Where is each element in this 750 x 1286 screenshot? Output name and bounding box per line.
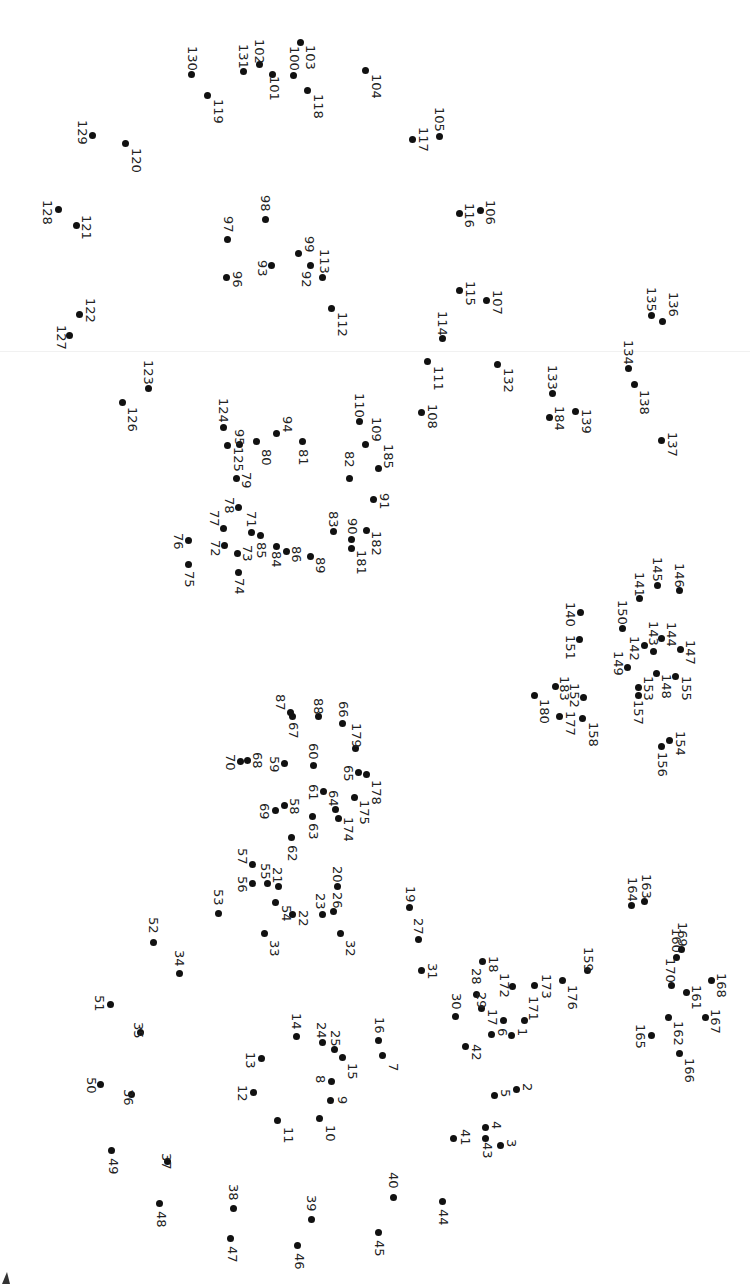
dot-label: 60 (307, 743, 320, 760)
dot-label: 167 (709, 1009, 722, 1034)
dot-label: 122 (84, 298, 97, 323)
dot-66 (339, 720, 346, 727)
dot-40 (390, 1194, 397, 1201)
dot-label: 78 (223, 497, 236, 514)
dot-label: 40 (387, 1172, 400, 1189)
dot-label: 99 (303, 236, 316, 253)
dot-118 (304, 87, 311, 94)
dot-97 (224, 236, 231, 243)
dot-135 (648, 312, 655, 319)
dot-label: 58 (288, 798, 301, 815)
dot-label: 108 (426, 404, 439, 429)
dot-54 (272, 899, 279, 906)
dot-14 (293, 1033, 300, 1040)
dot-157 (635, 692, 642, 699)
dot-label: 14 (290, 1013, 303, 1030)
dot-label: 84 (270, 551, 283, 568)
dot-label: 117 (417, 127, 430, 152)
dot-47 (227, 1235, 234, 1242)
dot-label: 172 (498, 973, 511, 998)
dot-label: 110 (353, 393, 366, 418)
dot-176 (559, 977, 566, 984)
dot-label: 143 (647, 621, 660, 646)
dot-label: 48 (155, 1211, 168, 1228)
dot-label: 95 (233, 429, 246, 446)
dot-label: 183 (558, 676, 571, 701)
dot-label: 166 (683, 1058, 696, 1083)
dot-label: 44 (437, 1209, 450, 1226)
dot-label: 87 (274, 694, 287, 711)
dot-label: 104 (370, 74, 383, 99)
dot-label: 162 (672, 1021, 685, 1046)
page-fold-line (0, 351, 750, 352)
dot-label: 20 (331, 866, 344, 883)
dot-label: 135 (645, 287, 658, 312)
dot-124 (220, 424, 227, 431)
dot-24 (319, 1039, 326, 1046)
dot-label: 128 (41, 200, 54, 225)
dot-label: 164 (626, 877, 639, 902)
dot-label: 92 (300, 271, 313, 288)
dot-label: 22 (297, 910, 310, 927)
dot-155 (672, 673, 679, 680)
dot-17 (500, 1017, 507, 1024)
dot-label: 77 (208, 510, 221, 527)
dot-173 (531, 982, 538, 989)
dot-119 (204, 92, 211, 99)
dot-52 (150, 939, 157, 946)
dot-44 (439, 1198, 446, 1205)
dot-label: 28 (470, 968, 483, 985)
dot-label: 29 (475, 992, 488, 1009)
dot-62 (288, 834, 295, 841)
dot-label: 74 (233, 578, 246, 595)
dot-label: 177 (564, 711, 577, 736)
dot-label: 46 (293, 1253, 306, 1270)
dot-label: 53 (212, 889, 225, 906)
dot-138 (631, 381, 638, 388)
dot-label: 96 (231, 271, 244, 288)
dot-label: 56 (236, 876, 249, 893)
dot-label: 131 (237, 44, 250, 69)
dot-label: 65 (342, 765, 355, 782)
dot-label: 149 (612, 651, 625, 676)
dot-label: 184 (553, 406, 566, 431)
dot-label: 145 (651, 557, 664, 582)
dot-label: 45 (373, 1240, 386, 1257)
dot-178 (363, 771, 370, 778)
dot-83 (330, 528, 337, 535)
dot-label: 76 (172, 533, 185, 550)
dot-7 (379, 1052, 386, 1059)
dot-label: 179 (350, 723, 363, 748)
dot-99 (295, 250, 302, 257)
dot-label: 6 (496, 1028, 509, 1036)
dot-label: 173 (540, 974, 553, 999)
dot-label: 169 (676, 922, 689, 947)
dot-10 (316, 1115, 323, 1122)
dot-label: 97 (222, 216, 235, 233)
dot-63 (309, 813, 316, 820)
dot-label: 139 (580, 409, 593, 434)
dot-label: 176 (566, 985, 579, 1010)
dot-label: 17 (486, 1009, 499, 1026)
dot-label: 155 (680, 676, 693, 701)
dot-label: 180 (538, 699, 551, 724)
dot-label: 57 (236, 848, 249, 865)
dot-label: 68 (251, 752, 264, 769)
dot-164 (628, 902, 635, 909)
dot-label: 70 (224, 754, 237, 771)
dot-label: 2 (521, 1083, 534, 1091)
dot-145 (654, 582, 661, 589)
dot-81 (299, 438, 306, 445)
dot-label: 13 (244, 1052, 257, 1069)
dot-label: 54 (280, 905, 293, 922)
dot-label: 174 (342, 817, 355, 842)
dot-label: 109 (370, 417, 383, 442)
dot-label: 80 (260, 449, 273, 466)
dot-115 (456, 287, 463, 294)
dot-label: 113 (318, 249, 331, 274)
dot-label: 71 (245, 511, 258, 528)
dot-156 (658, 743, 665, 750)
dot-label: 156 (656, 752, 669, 777)
dot-label: 52 (147, 917, 160, 934)
dot-label: 100 (288, 46, 301, 71)
